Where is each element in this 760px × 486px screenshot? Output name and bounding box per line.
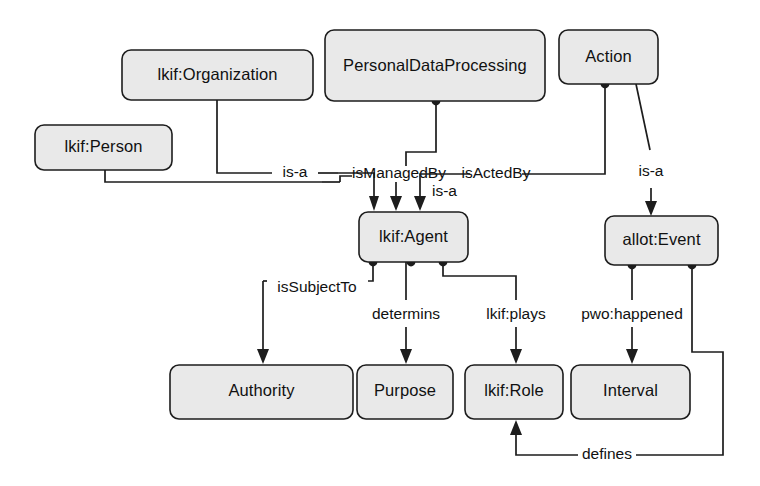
arrowhead-icon xyxy=(645,201,657,216)
node-lkif-organization[interactable]: lkif:Organization xyxy=(122,50,313,100)
node-purpose[interactable]: Purpose xyxy=(357,365,453,419)
edge-event-defines: defines xyxy=(510,261,723,462)
arrowhead-icon xyxy=(510,349,522,364)
node-lkif-person[interactable]: lkif:Person xyxy=(35,125,172,170)
edge-line-merge xyxy=(340,176,352,182)
diagram-canvas: is-a isManagedBy isActedBy is-a xyxy=(0,0,760,486)
node-personaldataprocessing[interactable]: PersonalDataProcessing xyxy=(325,30,545,101)
node-action[interactable]: Action xyxy=(559,30,658,84)
edge-agent-issubjectto: isSubjectTo xyxy=(257,258,377,364)
arrowhead-icon xyxy=(510,420,522,435)
edge-line-upper xyxy=(443,262,516,300)
edge-line-wrap xyxy=(636,265,723,455)
edge-line xyxy=(406,101,436,166)
node-label: Interval xyxy=(603,381,658,399)
node-lkif-role[interactable]: lkif:Role xyxy=(465,365,563,419)
edge-agent-determins: determins xyxy=(372,258,440,364)
node-allot-event[interactable]: allot:Event xyxy=(605,216,718,265)
node-label: lkif:Agent xyxy=(379,227,448,245)
edge-label-plays: lkif:plays xyxy=(486,305,546,322)
arrowhead-icon xyxy=(400,349,412,364)
arrowhead-icon xyxy=(390,196,402,211)
edge-label-org-isa: is-a xyxy=(283,163,308,180)
edge-line-diagonal xyxy=(636,84,650,150)
node-label: Action xyxy=(585,47,631,65)
node-interval[interactable]: Interval xyxy=(571,365,690,419)
edge-label-issubjectto: isSubjectTo xyxy=(277,278,356,295)
edge-label-determins: determins xyxy=(372,305,440,322)
node-lkif-agent[interactable]: lkif:Agent xyxy=(359,212,468,262)
edge-line-to-arrow xyxy=(516,434,578,455)
edge-label-pwohappened: pwo:happened xyxy=(581,305,683,322)
arrowhead-icon xyxy=(626,349,638,364)
node-label: Purpose xyxy=(374,381,436,399)
edge-agent-plays: lkif:plays xyxy=(439,258,546,364)
node-label: lkif:Role xyxy=(484,381,544,399)
edge-line xyxy=(217,100,272,173)
node-label: lkif:Person xyxy=(64,137,142,155)
edge-label-action-isa: is-a xyxy=(639,162,664,179)
edge-org-isa-agent: is-a xyxy=(217,100,379,211)
arrowhead-icon xyxy=(369,196,379,211)
edge-person-isa-agent xyxy=(105,170,352,182)
edge-label-agent-isa-annotation: is-a xyxy=(432,182,457,199)
arrowhead-icon xyxy=(414,196,426,211)
node-label: PersonalDataProcessing xyxy=(343,56,527,74)
edge-label-defines: defines xyxy=(582,445,632,462)
arrowhead-icon xyxy=(257,349,269,364)
edge-event-pwohappened: pwo:happened xyxy=(581,261,683,364)
node-label: allot:Event xyxy=(622,230,700,248)
edge-action-isa-event: is-a xyxy=(636,84,664,216)
edge-label-isactedby: isActedBy xyxy=(462,164,531,181)
node-label: lkif:Organization xyxy=(157,65,277,83)
ontology-diagram: is-a isManagedBy isActedBy is-a xyxy=(0,0,760,486)
edge-label-ismanagedby: isManagedBy xyxy=(352,164,446,181)
node-authority[interactable]: Authority xyxy=(170,365,353,419)
node-label: Authority xyxy=(228,381,295,399)
